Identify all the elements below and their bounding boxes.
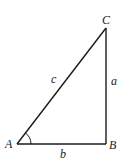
vertex-c-label: C [102, 13, 111, 27]
side-b-label: b [60, 147, 66, 161]
side-a-label: a [111, 74, 117, 88]
vertex-b-label: B [109, 138, 117, 152]
angle-a-arc [26, 133, 32, 144]
vertex-a-label: A [4, 137, 13, 151]
side-c-label: c [51, 72, 57, 86]
side-c-line [17, 28, 106, 144]
triangle-diagram: A B C a b c [0, 0, 124, 165]
